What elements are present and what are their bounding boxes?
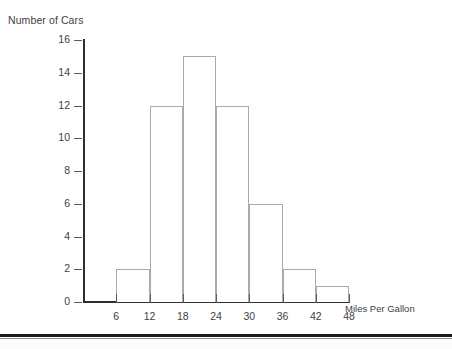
y-tick-mark xyxy=(74,40,82,41)
y-tick-mark xyxy=(74,269,82,270)
plot-area xyxy=(83,40,345,302)
x-axis-title: Miles Per Gallon xyxy=(345,303,415,314)
y-tick-mark xyxy=(74,73,82,74)
histogram-bar xyxy=(316,286,349,302)
histogram-bar xyxy=(183,56,216,302)
y-tick-label: 10 xyxy=(6,131,70,143)
y-tick-mark xyxy=(74,204,82,205)
y-tick-label: 8 xyxy=(6,164,70,176)
x-tick-mark xyxy=(316,294,317,303)
page-margin xyxy=(0,339,452,349)
x-tick-mark xyxy=(249,294,250,303)
x-tick-mark xyxy=(283,294,284,303)
y-tick-label: 16 xyxy=(6,33,70,45)
x-axis-end-mark xyxy=(349,294,350,303)
y-tick-label: 2 xyxy=(6,262,70,274)
y-tick-label: 6 xyxy=(6,197,70,209)
histogram-bar xyxy=(249,204,282,302)
page-edge-line xyxy=(0,334,452,337)
y-tick-mark xyxy=(74,302,82,303)
x-tick-mark xyxy=(150,294,151,303)
y-tick-mark xyxy=(74,171,82,172)
y-tick-label: 12 xyxy=(6,99,70,111)
y-tick-mark xyxy=(74,237,82,238)
x-tick-mark xyxy=(183,294,184,303)
x-tick-mark xyxy=(116,294,117,303)
histogram-bar xyxy=(116,269,149,302)
histogram-bar xyxy=(150,106,183,303)
x-tick-mark xyxy=(216,294,217,303)
histogram-chart: Number of Cars 0246810121416 61218243036… xyxy=(0,0,452,349)
y-tick-label: 14 xyxy=(6,66,70,78)
y-tick-mark xyxy=(74,106,82,107)
histogram-bar xyxy=(283,269,316,302)
y-tick-mark xyxy=(74,138,82,139)
y-tick-label: 0 xyxy=(6,295,70,307)
histogram-bar xyxy=(216,106,249,303)
y-tick-label: 4 xyxy=(6,230,70,242)
